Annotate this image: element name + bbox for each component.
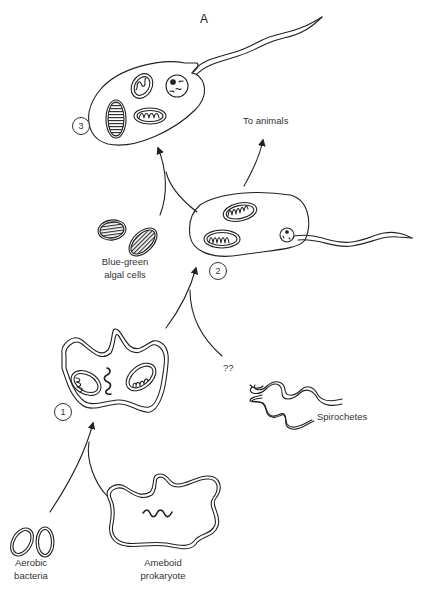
nucleus-icon xyxy=(166,75,188,97)
aerobic-bacteria-label: Aerobic bacteria xyxy=(6,556,56,582)
ameboid-prokaryote xyxy=(107,474,220,549)
arrow-cell2-to-animals xyxy=(244,140,263,186)
arrow-ameboid-to-cell1 xyxy=(88,442,107,496)
cell-1 xyxy=(62,329,168,412)
diagram-artwork xyxy=(0,0,421,589)
aerobic-bacteria-label-line2: bacteria xyxy=(6,569,56,582)
mitochondrion-icon xyxy=(121,358,161,397)
ameboid-label-line1: Ameboid xyxy=(135,556,191,569)
dna-strand xyxy=(143,510,172,517)
arrow-spirochetes-to-cell2 xyxy=(190,290,222,356)
mitochondrion-icon xyxy=(204,230,240,248)
mitochondrion-icon xyxy=(222,200,259,225)
stage-3-marker: 3 xyxy=(72,117,90,135)
arrows xyxy=(50,140,263,512)
dna-strand xyxy=(104,368,111,394)
aerobic-bacteria-label-line1: Aerobic xyxy=(6,556,56,569)
algae-label: Blue-green algal cells xyxy=(100,255,150,281)
nucleus-icon xyxy=(280,228,294,242)
algae-label-line2: algal cells xyxy=(100,268,150,281)
mitochondrion-icon xyxy=(67,365,106,400)
diagram-title: A xyxy=(200,12,208,26)
arrow-cell2-to-cell3 xyxy=(166,172,197,212)
arrow-bacteria-to-cell1 xyxy=(50,423,93,512)
cell-2-membrane xyxy=(189,192,308,256)
stage-2-marker: 2 xyxy=(209,262,227,280)
ameboid-label: Ameboid prokaryote xyxy=(135,556,191,582)
aerobic-bacteria xyxy=(6,524,54,560)
spirochetes-label: Spirochetes xyxy=(317,410,367,423)
mitochondrion-icon xyxy=(127,70,157,103)
arrow-cell1-to-cell2 xyxy=(166,268,196,328)
chloroplast-icon xyxy=(106,100,126,138)
ameboid-label-line2: prokaryote xyxy=(135,569,191,582)
to-animals-label: To animals xyxy=(243,114,288,127)
cell-2 xyxy=(189,192,412,256)
mitochondrion-icon xyxy=(134,108,166,124)
arrow-algae-to-cell3 xyxy=(158,148,165,215)
algae-label-line1: Blue-green xyxy=(100,255,150,268)
endosymbiosis-diagram: A 3 2 1 To animals Blue-green algal cell… xyxy=(0,0,421,589)
stage-1-marker: 1 xyxy=(54,403,72,421)
unknown-label: ?? xyxy=(223,361,234,374)
